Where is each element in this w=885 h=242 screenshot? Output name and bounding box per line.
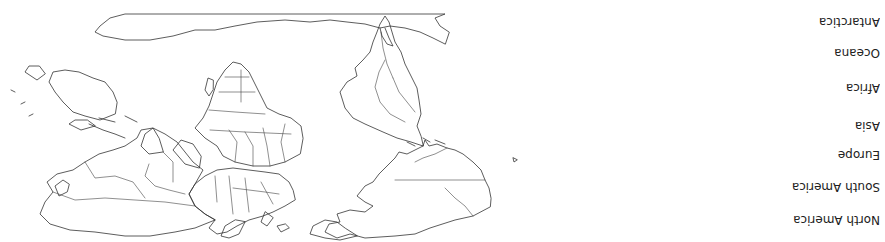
usa-mexico-border [415, 148, 447, 162]
legend-item-oceana[interactable]: Oceana [834, 46, 880, 60]
alaska-border [445, 188, 473, 216]
antarctica-outline [95, 14, 449, 44]
africa-borders-mid [209, 92, 291, 134]
madagascar-outline [205, 78, 213, 96]
scandinavia-outline [221, 220, 245, 238]
africa-borders-south [225, 70, 249, 102]
brazil-border [375, 60, 405, 122]
legend-item-antarctica[interactable]: Antarctica [819, 15, 880, 29]
legend-item-asia[interactable]: Asia [855, 119, 880, 133]
new-zealand-outline [25, 66, 45, 80]
pacific-islands [11, 90, 33, 116]
region-north-america[interactable] [310, 138, 491, 240]
north-america-outline [325, 140, 491, 238]
africa-outline [195, 62, 303, 166]
iceland-outline [277, 224, 289, 232]
rotated-stage: North America South America Europe Asia … [0, 0, 885, 242]
central-asia-borders [145, 152, 185, 194]
world-map [0, 0, 885, 242]
china-border [85, 162, 145, 198]
continent-legend: North America South America Europe Asia … [770, 0, 880, 242]
europe-borders [215, 176, 279, 214]
region-antarctica[interactable] [95, 14, 449, 46]
andes-border [393, 78, 415, 112]
legend-item-europe[interactable]: Europe [838, 148, 880, 162]
australia-outline [49, 70, 117, 120]
region-asia[interactable] [40, 116, 215, 236]
atlantic-island [513, 158, 517, 162]
russia-border [53, 192, 195, 206]
africa-borders-north [229, 124, 285, 166]
legend-item-north-america[interactable]: North America [793, 213, 880, 227]
region-europe[interactable] [189, 168, 295, 238]
legend-item-south-america[interactable]: South America [792, 180, 880, 194]
legend-item-africa[interactable]: Africa [846, 81, 880, 95]
region-africa[interactable] [195, 62, 303, 166]
antarctic-peninsula [380, 28, 393, 46]
region-oceana[interactable] [11, 66, 117, 130]
argentina-border [381, 32, 393, 78]
india-outline [141, 128, 163, 154]
